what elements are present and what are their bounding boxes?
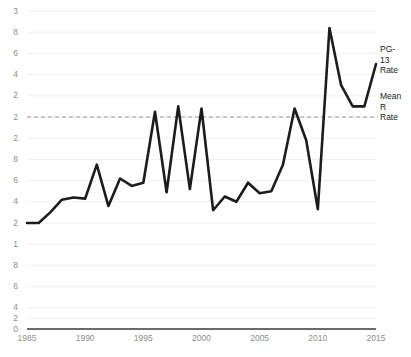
y-axis-tick-label: 6 [0, 282, 18, 291]
y-axis-tick-label: 6 [0, 176, 18, 185]
pg13-rate-line [27, 28, 376, 223]
y-axis-tick-label: 4 [0, 197, 18, 206]
y-axis-tick-label: 1 [0, 240, 18, 249]
y-axis-tick-label: 4 [0, 303, 18, 312]
y-axis-tick-label: 2 [0, 134, 18, 143]
series-label-line: Rate [380, 112, 411, 123]
line-chart-plot [0, 0, 411, 357]
y-axis-tick-label: 8 [0, 155, 18, 164]
series-label-pg13-rate: PG-13Rate [380, 44, 411, 76]
series-label-line: PG- [380, 44, 411, 55]
series-label-mean-r-rate: MeanRRate [380, 91, 411, 123]
y-axis-tick-label: 2 [0, 113, 18, 122]
gridlines-group [27, 11, 376, 318]
x-axis-tick-label: 2010 [298, 334, 338, 343]
y-axis-tick-label: 2 [0, 91, 18, 100]
y-axis-tick-label: 2 [0, 219, 18, 228]
x-axis-tick-label: 2005 [240, 334, 280, 343]
x-axis-tick-label: 1990 [65, 334, 105, 343]
chart-container: 38642228642186420 1985199019952000200520… [0, 0, 411, 357]
x-axis-tick-label: 2000 [182, 334, 222, 343]
y-axis-tick-label: 8 [0, 261, 18, 270]
x-axis-tick-label: 1995 [123, 334, 163, 343]
y-axis-tick-label: 2 [0, 314, 18, 323]
y-axis-tick-label: 0 [0, 325, 18, 334]
y-axis-tick-label: 4 [0, 70, 18, 79]
x-axis-tick-label: 1985 [7, 334, 47, 343]
x-axis-tick-label: 2015 [356, 334, 396, 343]
series-label-line: R [380, 102, 411, 113]
y-axis-tick-label: 8 [0, 28, 18, 37]
series-label-line: Rate [380, 65, 411, 76]
series-label-line: 13 [380, 55, 411, 66]
series-label-line: Mean [380, 91, 411, 102]
y-axis-tick-label: 3 [0, 7, 18, 16]
y-axis-tick-label: 6 [0, 49, 18, 58]
